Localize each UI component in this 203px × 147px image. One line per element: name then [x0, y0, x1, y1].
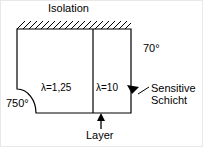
label-isolation: Isolation — [48, 3, 89, 15]
label-lambda-right-zone: λ=10 — [96, 83, 118, 94]
label-sensitive-line2: Schicht — [151, 95, 196, 107]
heat-transfer-diagram — [1, 1, 203, 147]
insulation-hatching — [17, 21, 131, 29]
sensitive-layer-leader — [138, 87, 149, 94]
diagram-canvas: Isolation 70° λ=1,25 λ=10 750° Sensitive… — [0, 0, 203, 147]
label-sensitive-layer: Sensitive Schicht — [151, 83, 196, 107]
layer-callout-arrow — [97, 113, 105, 129]
label-layer: Layer — [86, 130, 114, 142]
label-temperature-left: 750° — [6, 98, 29, 110]
label-temperature-right: 70° — [143, 43, 160, 55]
label-lambda-left-zone: λ=1,25 — [41, 83, 71, 94]
body-outline — [17, 29, 131, 113]
sensitive-layer-arrowhead — [127, 85, 139, 94]
